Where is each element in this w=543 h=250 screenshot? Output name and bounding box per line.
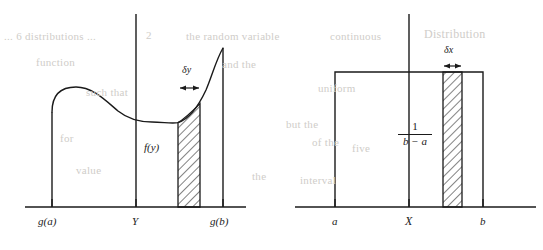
left-panel-hatched-strip (178, 104, 200, 207)
right-panel-height-label: 1 b − a (398, 121, 432, 147)
probability-transformation-figure (0, 0, 543, 250)
right-panel-hatched-strip (443, 72, 462, 207)
left-panel-label-Y: Y (132, 215, 138, 227)
left-panel-label-ga: g(a) (38, 215, 56, 227)
left-panel-label-f-of-y: f(y) (144, 141, 159, 153)
right-panel-label-b: b (480, 215, 486, 227)
left-panel (25, 14, 246, 207)
fraction-numerator: 1 (398, 121, 432, 133)
right-panel-label-X: X (405, 214, 412, 229)
right-panel-label-a: a (332, 215, 338, 227)
left-panel-label-delta-y: δy (182, 64, 191, 75)
left-panel-label-gb: g(b) (210, 215, 228, 227)
left-panel-delta-y-arrow (180, 85, 199, 90)
right-panel-label-delta-x: δx (444, 44, 453, 55)
right-panel (295, 14, 536, 207)
fraction-denominator: b − a (398, 136, 432, 148)
right-panel-delta-x-arrow (444, 63, 461, 68)
